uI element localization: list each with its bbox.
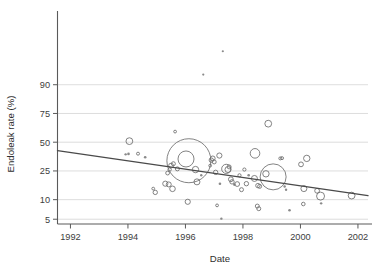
data-point [166,171,170,175]
plot-axes [58,11,373,224]
data-point [200,174,202,176]
data-point [263,171,269,177]
data-point [144,156,147,159]
data-point [285,188,287,190]
data-point [283,185,285,187]
regression-line [58,151,369,196]
x-tick-label: 2002 [348,232,368,242]
data-point [127,153,130,156]
data-point [240,188,244,192]
data-point [174,130,177,133]
data-point [202,73,204,75]
data-point [166,182,171,187]
y-tick-label: 50 [40,138,50,148]
data-point [288,209,291,212]
x-tick-label: 1992 [60,232,80,242]
data-point [217,153,222,158]
y-tick-label: 90 [40,80,50,90]
regression-line-group [58,151,369,196]
data-point [192,166,198,172]
data-point [178,151,194,167]
data-point [244,181,248,185]
data-point [299,162,304,167]
data-point [163,181,168,186]
x-tick-label: 1996 [175,232,195,242]
y-tick-labels: 51025507590 [40,80,50,225]
data-point [235,182,240,187]
data-point [167,139,211,183]
data-point [304,155,310,161]
x-tick-label: 1998 [233,232,253,242]
chart-container: 51025507590 199219941996199820002002 End… [0,0,385,267]
y-tick-label: 75 [40,109,50,119]
data-bubbles-group [124,50,355,220]
data-point [247,174,250,177]
y-tick-marks [53,85,58,220]
data-point [250,149,260,159]
data-point [222,50,224,52]
y-tick-label: 10 [40,195,50,205]
data-point [126,138,133,145]
gridlines-group [58,85,369,220]
data-point [317,192,325,200]
x-axis-title: Date [210,253,230,264]
data-point [153,190,157,194]
scatter-plot: 51025507590 199219941996199820002002 End… [0,0,385,267]
x-tick-marks [70,224,358,229]
data-point [219,182,222,185]
x-tick-label: 2000 [290,232,310,242]
x-tick-label: 1994 [118,232,138,242]
data-point [137,152,140,155]
data-point [225,167,231,173]
data-point [170,186,176,192]
data-point [124,153,126,155]
y-tick-label: 5 [45,215,50,225]
y-axis-title: Endoleak rate (%) [5,96,16,173]
data-point [216,204,219,207]
x-tick-labels: 199219941996199820002002 [60,232,368,242]
data-point [265,120,272,127]
data-point [152,187,155,190]
data-point [320,202,322,204]
data-point [220,217,222,219]
y-tick-label: 25 [40,166,50,176]
data-point [302,202,306,206]
